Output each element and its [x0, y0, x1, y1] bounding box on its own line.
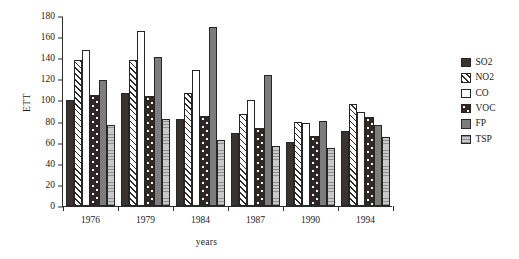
bar-VOC-1984 [200, 116, 208, 206]
bar-TSP-1987 [272, 146, 280, 206]
bar-NO2-1976 [74, 60, 82, 206]
bar-FP-1976 [99, 80, 107, 206]
legend-label: TSP [476, 135, 492, 145]
x-tick [118, 206, 119, 211]
bar-group-1984 [176, 17, 225, 206]
y-tick-label: 140 [41, 54, 55, 64]
bar-SO2-1979 [121, 93, 129, 206]
y-tick [58, 185, 63, 186]
bar-FP-1990 [319, 121, 327, 207]
legend-label: FP [476, 119, 487, 129]
bar-group-1976 [66, 17, 115, 206]
bar-TSP-1979 [162, 119, 170, 206]
bar-NO2-1990 [294, 122, 302, 206]
y-tick-label: 100 [41, 97, 55, 107]
legend-swatch-SO2-icon [461, 58, 471, 68]
bar-VOC-1976 [90, 95, 98, 206]
bar-FP-1984 [209, 27, 217, 206]
y-tick [58, 143, 63, 144]
legend-item-CO[interactable]: CO [461, 89, 496, 98]
y-tick [58, 122, 63, 123]
x-tick-label-1984: 1984 [191, 216, 210, 226]
legend-item-VOC[interactable]: VOC [461, 104, 496, 113]
x-tick [393, 206, 394, 211]
bar-TSP-1994 [382, 137, 390, 206]
x-tick-label-1994: 1994 [356, 216, 375, 226]
x-tick [173, 206, 174, 211]
y-tick-label: 40 [46, 160, 56, 170]
bar-VOC-1987 [255, 128, 263, 206]
bar-TSP-1984 [217, 140, 225, 207]
y-tick-label: 180 [41, 12, 55, 22]
y-tick-label: 0 [50, 202, 55, 212]
bar-CO-1994 [357, 112, 365, 206]
bar-VOC-1990 [310, 136, 318, 206]
y-tick-label: 60 [46, 139, 56, 149]
bar-group-1994 [341, 17, 390, 206]
legend-swatch-FP-icon [461, 119, 471, 129]
bar-group-1979 [121, 17, 170, 206]
bar-SO2-1994 [341, 131, 349, 206]
bar-FP-1994 [374, 125, 382, 206]
x-axis-title: years [196, 237, 218, 247]
legend-label: VOC [476, 104, 496, 114]
bar-SO2-1987 [231, 133, 239, 206]
legend-label: CO [476, 89, 489, 99]
bar-group-1990 [286, 17, 335, 206]
y-tick-label: 20 [46, 181, 56, 191]
x-tick [283, 206, 284, 211]
bar-CO-1976 [82, 50, 90, 206]
bar-NO2-1987 [239, 114, 247, 206]
legend: SO2NO2COVOCFPTSP [461, 58, 496, 144]
x-tick [338, 206, 339, 211]
x-tick-label-1990: 1990 [301, 216, 320, 226]
bar-TSP-1990 [327, 148, 335, 206]
legend-item-FP[interactable]: FP [461, 120, 496, 129]
legend-swatch-NO2-icon [461, 73, 471, 83]
bar-SO2-1976 [66, 100, 74, 206]
x-tick [228, 206, 229, 211]
bar-NO2-1979 [129, 60, 137, 206]
x-tick-label-1979: 1979 [136, 216, 155, 226]
bar-NO2-1984 [184, 93, 192, 206]
legend-label: NO2 [476, 73, 494, 83]
bar-CO-1990 [302, 123, 310, 206]
bar-CO-1979 [137, 31, 145, 206]
legend-swatch-CO-icon [461, 89, 471, 99]
legend-item-NO2[interactable]: NO2 [461, 73, 496, 82]
y-tick-label: 80 [46, 118, 56, 128]
y-tick [58, 101, 63, 102]
y-axis-title: ETT [22, 93, 32, 112]
y-tick-label: 120 [41, 76, 55, 86]
x-tick-label-1976: 1976 [81, 216, 100, 226]
bar-FP-1987 [264, 75, 272, 206]
bar-CO-1987 [247, 100, 255, 206]
y-tick-label: 160 [41, 33, 55, 43]
x-axis-title-wrap: years [0, 237, 519, 247]
legend-label: SO2 [476, 58, 493, 68]
bar-CO-1984 [192, 70, 200, 206]
legend-item-TSP[interactable]: TSP [461, 135, 496, 144]
legend-swatch-TSP-icon [461, 135, 471, 145]
y-tick [58, 164, 63, 165]
y-tick [58, 38, 63, 39]
bar-NO2-1994 [349, 104, 357, 206]
x-tick-label-1987: 1987 [246, 216, 265, 226]
y-tick [58, 59, 63, 60]
bar-VOC-1979 [145, 96, 153, 206]
bar-TSP-1976 [107, 125, 115, 206]
y-tick [58, 80, 63, 81]
y-tick [58, 17, 63, 18]
bar-SO2-1990 [286, 142, 294, 206]
bar-chart: ETT 020406080100120140160180 19761979198… [0, 0, 519, 259]
legend-swatch-VOC-icon [461, 104, 471, 114]
bar-group-1987 [231, 17, 280, 206]
x-tick [63, 206, 64, 211]
bar-FP-1979 [154, 57, 162, 206]
bar-VOC-1994 [365, 117, 373, 206]
legend-item-SO2[interactable]: SO2 [461, 58, 496, 67]
plot-area: 020406080100120140160180 197619791984198… [62, 17, 392, 207]
bar-SO2-1984 [176, 119, 184, 206]
